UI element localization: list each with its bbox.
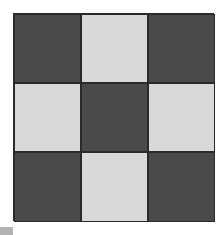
grid-cell-dark	[81, 83, 148, 152]
grid-cell-light	[81, 152, 148, 222]
grid-cell-dark	[148, 152, 215, 222]
grid-cell-dark	[14, 14, 81, 83]
grid-cell-light	[14, 83, 81, 152]
grid-cell-light	[81, 14, 148, 83]
checkerboard-grid	[13, 13, 214, 221]
grid-cell-dark	[148, 14, 215, 83]
gray-swatch	[0, 227, 13, 235]
grid-cell-dark	[14, 152, 81, 222]
grid-cell-light	[148, 83, 215, 152]
